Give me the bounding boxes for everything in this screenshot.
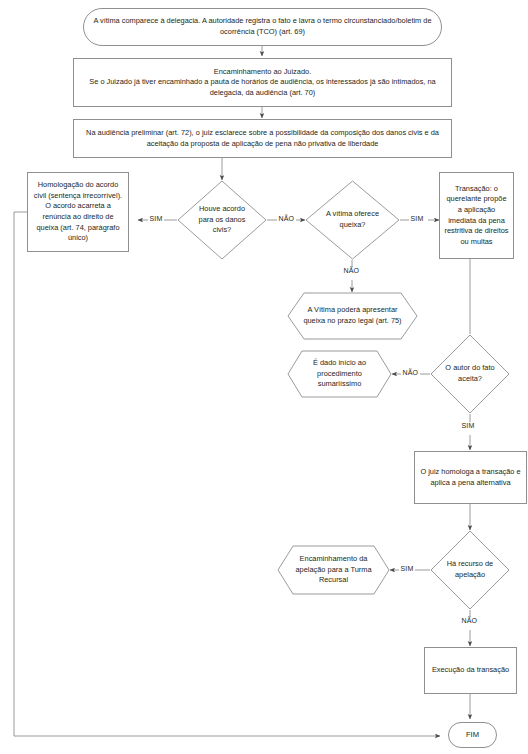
edge-label-queixa-nao: NÃO: [342, 267, 361, 274]
node-autor-aceita-label: O autor do fato aceita?: [442, 363, 498, 384]
node-homologacao[interactable]: Homologação do acordo civil (sentença ir…: [27, 172, 129, 252]
node-vitima-podera-label: A Vítima poderá apresentar queixa no pra…: [303, 305, 403, 326]
node-audiencia-preliminar-label: Na audiência preliminar (art. 72), o jui…: [78, 128, 447, 149]
edge-label-recurso-nao: NÃO: [460, 617, 479, 624]
node-encaminhamento-apelacao[interactable]: Encaminhamento da apelação para a Turma …: [277, 545, 390, 595]
node-houve-acordo-label: Houve acordo para os danos civis?: [191, 204, 253, 236]
node-oferece-queixa[interactable]: A vítima oferece queixa?: [305, 180, 400, 260]
node-autor-aceita[interactable]: O autor do fato aceita?: [430, 334, 510, 414]
edge-label-queixa-sim: SIM: [409, 215, 425, 222]
node-execucao-label: Execução da transação: [432, 665, 509, 676]
edge-label-aceita-nao: NÃO: [401, 369, 420, 376]
node-encaminhamento-label: Encaminhamento ao Juizado. Se o Juizado …: [78, 67, 447, 99]
edge-homologacao-to-fim: [14, 212, 440, 736]
edge-label-recurso-sim: SIM: [399, 565, 415, 572]
node-audiencia-preliminar[interactable]: Na audiência preliminar (art. 72), o jui…: [73, 119, 452, 158]
node-ha-recurso[interactable]: Há recurso de apelação: [430, 530, 510, 610]
node-fim[interactable]: FIM: [448, 722, 497, 748]
node-dado-inicio-label: É dado início ao procedimento sumariíssi…: [301, 358, 379, 390]
node-dado-inicio[interactable]: É dado início ao procedimento sumariíssi…: [287, 350, 392, 398]
node-transacao[interactable]: Transação: o querelante propõe a aplicaç…: [439, 172, 514, 259]
node-juiz-homologa[interactable]: O juiz homologa a transação e aplica a p…: [414, 451, 527, 504]
node-homologacao-label: Homologação do acordo civil (sentença ir…: [32, 180, 124, 243]
node-transacao-label: Transação: o querelante propõe a aplicaç…: [444, 184, 509, 247]
node-encaminhamento[interactable]: Encaminhamento ao Juizado. Se o Juizado …: [73, 58, 452, 107]
node-encaminhamento-apelacao-label: Encaminhamento da apelação para a Turma …: [292, 554, 376, 586]
flowchart-canvas: A vítima comparece à delegacia. A autori…: [0, 0, 528, 754]
node-vitima-podera[interactable]: A Vítima poderá apresentar queixa no pra…: [287, 292, 418, 340]
node-start[interactable]: A vítima comparece à delegacia. A autori…: [83, 8, 442, 46]
edge-label-acordo-sim: SIM: [148, 215, 164, 222]
edge-label-aceita-sim: SIM: [460, 422, 476, 429]
node-oferece-queixa-label: A vítima oferece queixa?: [321, 209, 385, 230]
node-fim-label: FIM: [466, 730, 479, 741]
edge-label-acordo-nao: NÃO: [277, 215, 296, 222]
node-ha-recurso-label: Há recurso de apelação: [442, 559, 498, 580]
node-execucao[interactable]: Execução da transação: [424, 647, 517, 694]
node-start-label: A vítima comparece à delegacia. A autori…: [88, 16, 437, 37]
node-juiz-homologa-label: O juiz homologa a transação e aplica a p…: [419, 467, 522, 488]
node-houve-acordo[interactable]: Houve acordo para os danos civis?: [177, 180, 267, 260]
